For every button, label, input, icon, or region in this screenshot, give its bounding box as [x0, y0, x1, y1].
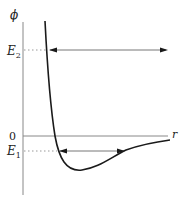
- arrowhead-left-icon: [59, 149, 67, 154]
- potential-curve: [45, 21, 170, 170]
- level-e1-label: E1: [6, 144, 21, 160]
- svg-text:E1: E1: [6, 144, 21, 160]
- y-axis-label: ϕ: [10, 8, 18, 22]
- level-e2-arrow: [49, 48, 168, 53]
- level-e2-label: E2: [6, 44, 21, 60]
- level-e1-arrow: [59, 149, 125, 154]
- svg-text:E2: E2: [6, 44, 21, 60]
- x-axis-label: r: [172, 128, 178, 141]
- zero-label: 0: [9, 130, 16, 143]
- potential-energy-diagram: ϕ 0 r E2 E1: [0, 0, 187, 203]
- arrowhead-right-icon: [160, 48, 168, 53]
- arrowhead-left-icon: [49, 48, 57, 53]
